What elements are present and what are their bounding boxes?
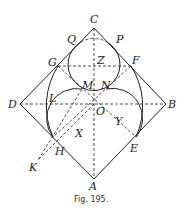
- label-x: X: [75, 128, 83, 139]
- label-l: L: [49, 93, 56, 104]
- big-right-arc: [131, 66, 143, 137]
- label-g: G: [48, 57, 57, 68]
- label-a: A: [89, 181, 97, 192]
- line-ge: [58, 66, 136, 137]
- label-k: K: [29, 162, 37, 173]
- label-n: N: [101, 80, 111, 91]
- label-y: Y: [115, 116, 122, 127]
- right-arc: [106, 88, 143, 137]
- figure-caption: Fig. 195.: [74, 195, 108, 204]
- geometry-figure: C Q P G Z F M N D L O B X Y H E K A Fig.…: [0, 0, 182, 211]
- label-q: Q: [67, 34, 76, 45]
- label-b: B: [168, 99, 176, 110]
- label-p: P: [116, 34, 123, 45]
- label-d: D: [8, 99, 17, 110]
- label-z: Z: [97, 55, 105, 66]
- outer-square: [20, 28, 166, 179]
- label-c: C: [90, 14, 98, 25]
- label-e: E: [130, 143, 138, 154]
- label-f: F: [132, 55, 140, 66]
- label-m: M: [82, 80, 93, 91]
- label-o: O: [96, 106, 105, 117]
- label-h: H: [55, 146, 65, 157]
